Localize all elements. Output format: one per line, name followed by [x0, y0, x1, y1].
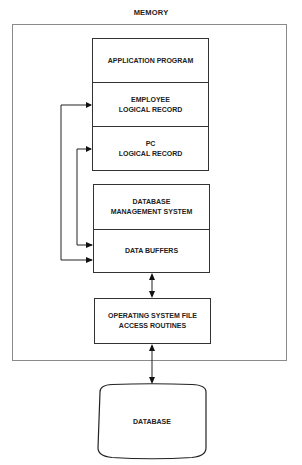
arrow-buffers-os-bidirectional: [149, 273, 155, 298]
arrow-buffers-to-pc: [77, 149, 93, 248]
arrow-os-database-bidirectional: [149, 344, 155, 384]
database-label: DATABASE: [96, 418, 208, 425]
connectors-layer: [0, 0, 302, 465]
